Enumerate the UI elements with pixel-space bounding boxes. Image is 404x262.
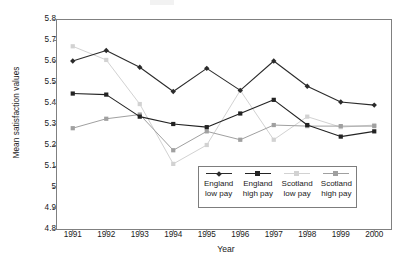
legend-marker-square-icon bbox=[255, 171, 260, 176]
data-point bbox=[205, 129, 209, 133]
legend-item-scotland-low-pay[interactable]: Scotlandlow pay bbox=[278, 169, 317, 198]
legend-item-scotland-high-pay[interactable]: Scotlandhigh pay bbox=[317, 169, 356, 198]
data-point bbox=[104, 58, 108, 62]
data-point bbox=[372, 102, 377, 107]
data-point bbox=[104, 93, 108, 97]
legend-swatch-icon bbox=[245, 169, 271, 178]
data-point bbox=[71, 44, 75, 48]
legend-marker-square-icon bbox=[333, 171, 338, 176]
legend-marker-square-icon bbox=[294, 171, 299, 176]
data-point bbox=[71, 126, 75, 130]
x-axis-tick-labels: 1991199219931994199519961997199819992000 bbox=[0, 230, 404, 244]
data-point bbox=[70, 58, 75, 63]
series-scotland-low-pay bbox=[71, 44, 377, 166]
legend-swatch-icon bbox=[284, 169, 310, 178]
data-point bbox=[171, 162, 175, 166]
x-axis-label: Year bbox=[60, 244, 392, 254]
legend-label-line1: England bbox=[243, 179, 272, 189]
legend-marker-diamond-icon bbox=[216, 171, 222, 177]
legend-swatch-icon bbox=[206, 169, 232, 178]
legend-label-line1: England bbox=[204, 179, 233, 189]
chart-figure: Mean satisfaction values 4.84.955.15.25.… bbox=[0, 0, 404, 262]
data-point bbox=[338, 99, 343, 104]
data-point bbox=[138, 115, 142, 119]
series-england-high-pay bbox=[71, 91, 377, 138]
data-point bbox=[205, 125, 209, 129]
data-point bbox=[205, 143, 209, 147]
legend-label-line2: high pay bbox=[243, 189, 273, 199]
legend-swatch-icon bbox=[323, 169, 349, 178]
chart-legend: Englandlow payEnglandhigh payScotlandlow… bbox=[198, 166, 357, 208]
legend-item-england-high-pay[interactable]: Englandhigh pay bbox=[238, 169, 277, 198]
legend-label-line2: low pay bbox=[284, 189, 311, 199]
data-point bbox=[272, 123, 276, 127]
data-point bbox=[138, 102, 142, 106]
data-point bbox=[238, 111, 242, 115]
legend-label-line2: low pay bbox=[205, 189, 232, 199]
data-point bbox=[372, 129, 376, 133]
x-axis-tick-label: 2000 bbox=[354, 230, 394, 239]
data-point bbox=[339, 135, 343, 139]
data-point bbox=[171, 122, 175, 126]
legend-label-line2: high pay bbox=[321, 189, 351, 199]
series-line bbox=[73, 51, 375, 106]
series-line bbox=[73, 94, 375, 137]
data-point bbox=[104, 117, 108, 121]
legend-label-line1: Scotland bbox=[321, 179, 352, 189]
data-point bbox=[305, 123, 309, 127]
data-point bbox=[71, 91, 75, 95]
plot-area bbox=[0, 0, 404, 262]
data-point bbox=[339, 124, 343, 128]
legend-item-england-low-pay[interactable]: Englandlow pay bbox=[199, 169, 238, 198]
data-point bbox=[104, 48, 109, 53]
series-england-low-pay bbox=[70, 48, 377, 108]
data-point bbox=[272, 138, 276, 142]
data-point bbox=[171, 148, 175, 152]
legend-label-line1: Scotland bbox=[282, 179, 313, 189]
data-point bbox=[305, 115, 309, 119]
data-point bbox=[372, 124, 376, 128]
data-point bbox=[238, 138, 242, 142]
data-point bbox=[272, 98, 276, 102]
series-line bbox=[73, 46, 375, 164]
